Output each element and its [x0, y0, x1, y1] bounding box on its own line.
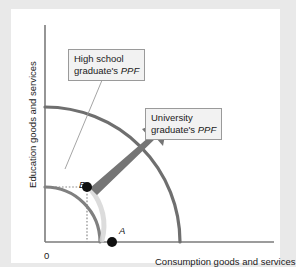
marker-point-a [107, 237, 117, 247]
x-axis-title: Consumption goods and services [155, 256, 295, 267]
origin-label: 0 [44, 250, 49, 261]
dotted-guides [45, 187, 87, 242]
callout-high-school-ppf-abbr: PPF [121, 65, 139, 76]
callout-high-school-ppf: High school graduate's PPF [68, 49, 145, 81]
high-school-ppf-curve [45, 187, 100, 242]
callout-university-ppf-abbr: PPF [198, 124, 216, 135]
callout-high-school-line2: graduate's PPF [74, 65, 139, 77]
y-axis-title: Education goods and services [27, 60, 38, 190]
leader-line-high-school [65, 73, 105, 169]
point-label-a: A [119, 225, 125, 236]
callout-high-school-line2-text: graduate's [74, 65, 121, 76]
callout-high-school-line1: High school [74, 53, 139, 65]
callout-university-ppf: University graduate's PPF [145, 108, 222, 140]
callout-university-line1: University [151, 112, 216, 124]
callout-university-line2-text: graduate's [151, 124, 198, 135]
figure-panel: High school graduate's PPF University gr… [11, 9, 280, 263]
point-label-b: B [79, 179, 85, 190]
callout-university-line2: graduate's PPF [151, 124, 216, 136]
